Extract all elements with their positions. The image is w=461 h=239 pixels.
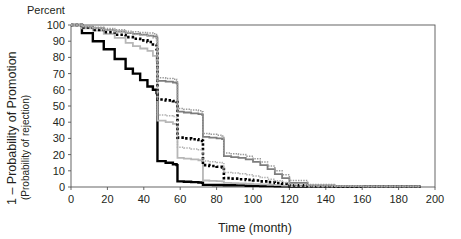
x-tick-label: 180 [389,193,407,205]
y-tick-label: 60 [53,84,65,96]
percent-corner-label: Percent [27,4,65,16]
y-tick-label: 50 [53,100,65,112]
kaplan-meier-chart: Percent 1 – Probability of Promotion (Pr… [0,0,461,239]
y-tick-label: 10 [53,165,65,177]
x-tick-label: 120 [280,193,298,205]
x-tick-label: 80 [210,193,222,205]
x-axis-title: Time (month) [218,221,292,235]
x-tick-label: 60 [174,193,186,205]
chart-figure: Percent 1 – Probability of Promotion (Pr… [0,0,461,239]
y-tick-label: 40 [53,116,65,128]
x-tick-label: 160 [353,193,371,205]
y-tick-label: 20 [53,149,65,161]
x-tick-label: 200 [426,193,444,205]
x-tick-label: 140 [317,193,335,205]
y-tick-label: 30 [53,132,65,144]
y-tick-label: 70 [53,68,65,80]
x-tick-label: 20 [101,193,113,205]
y-axis-subtitle: (Probability of rejection) [20,95,31,200]
x-tick-label: 0 [68,193,74,205]
y-tick-label: 100 [47,19,65,31]
y-tick-label: 90 [53,35,65,47]
x-tick-label: 100 [244,193,262,205]
y-tick-label: 0 [59,181,65,193]
y-axis-title: 1 – Probability of Promotion [5,51,19,205]
x-tick-label: 40 [138,193,150,205]
y-tick-label: 80 [53,51,65,63]
